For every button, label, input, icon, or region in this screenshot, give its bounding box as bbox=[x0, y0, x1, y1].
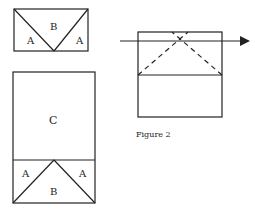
right-dashed-line-right bbox=[172, 32, 222, 75]
top-left-label-left: A bbox=[26, 35, 35, 46]
bottom-left-label-left: A bbox=[21, 168, 30, 179]
bottom-left-label-right: A bbox=[78, 168, 87, 179]
bottom-left-label-center: B bbox=[50, 186, 57, 197]
top-left-panel: A B A bbox=[14, 9, 88, 51]
bottom-left-diagonal-left bbox=[13, 160, 54, 203]
top-left-label-right: A bbox=[75, 35, 84, 46]
bottom-left-diagonal-right bbox=[54, 160, 95, 203]
diagram-canvas: A B A C A B A Figure 2 bbox=[0, 0, 255, 216]
bottom-left-panel: C A B A bbox=[13, 72, 95, 203]
top-left-label-center: B bbox=[50, 21, 57, 32]
bottom-left-label-c: C bbox=[49, 114, 57, 127]
arrow-head-icon bbox=[240, 36, 250, 46]
bottom-left-rectangle bbox=[13, 72, 95, 203]
right-panel bbox=[120, 32, 250, 117]
right-dashed-line-left bbox=[138, 32, 188, 75]
figure-caption: Figure 2 bbox=[136, 130, 171, 139]
